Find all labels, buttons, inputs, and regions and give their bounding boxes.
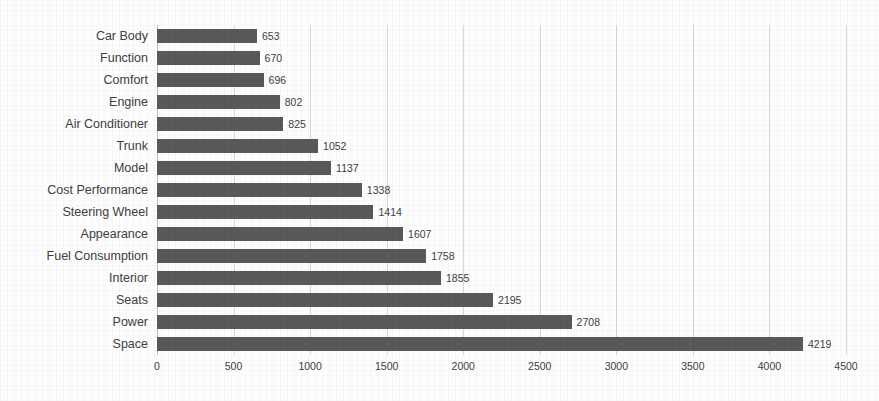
bar-row: 696: [157, 69, 846, 92]
tick-label-0: 0: [154, 358, 160, 374]
bar-row: 653: [157, 25, 846, 48]
tick-label-2500: 2500: [528, 358, 551, 374]
category-label: Appearance: [0, 223, 148, 246]
bar-value-label: 1052: [323, 137, 346, 155]
bar-row: 2195: [157, 289, 846, 312]
bar-value-label: 1338: [367, 181, 390, 199]
tick-label-1500: 1500: [375, 358, 398, 374]
category-label: Model: [0, 157, 148, 180]
bar-row: 1607: [157, 223, 846, 246]
bar[interactable]: [157, 205, 373, 219]
bar-chart: Car BodyFunctionComfortEngineAir Conditi…: [0, 0, 879, 401]
category-label: Power: [0, 311, 148, 334]
bar-row: 4219: [157, 333, 846, 356]
category-label: Air Conditioner: [0, 113, 148, 136]
bar[interactable]: [157, 271, 441, 285]
tick-label-500: 500: [225, 358, 243, 374]
bar[interactable]: [157, 73, 264, 87]
bar[interactable]: [157, 293, 493, 307]
category-label: Cost Performance: [0, 179, 148, 202]
category-label: Interior: [0, 267, 148, 290]
category-label: Fuel Consumption: [0, 245, 148, 268]
bar-row: 1758: [157, 245, 846, 268]
bar-value-label: 1758: [431, 247, 454, 265]
bar[interactable]: [157, 117, 283, 131]
bar-value-label: 1607: [408, 225, 431, 243]
bar-row: 1414: [157, 201, 846, 224]
bar-value-label: 802: [285, 93, 303, 111]
bar-value-label: 653: [262, 27, 280, 45]
bar[interactable]: [157, 95, 280, 109]
bar-value-label: 2708: [577, 313, 600, 331]
bar-row: 802: [157, 91, 846, 114]
category-label: Car Body: [0, 25, 148, 48]
category-axis-labels: Car BodyFunctionComfortEngineAir Conditi…: [0, 25, 148, 355]
category-label: Engine: [0, 91, 148, 114]
bar-value-label: 2195: [498, 291, 521, 309]
bar-value-label: 696: [269, 71, 287, 89]
bar-series: 6536706968028251052113713381414160717581…: [157, 25, 846, 355]
bar-value-label: 1137: [336, 159, 359, 177]
gridline-4500: [846, 25, 847, 355]
bar[interactable]: [157, 227, 403, 241]
bar-value-label: 1414: [378, 203, 401, 221]
tick-label-3500: 3500: [681, 358, 704, 374]
value-axis-tick-labels: 050010001500200025003000350040004500: [157, 358, 846, 378]
bar-value-label: 4219: [808, 335, 831, 353]
bar[interactable]: [157, 161, 331, 175]
category-label: Function: [0, 47, 148, 70]
tick-label-4000: 4000: [758, 358, 781, 374]
category-label: Steering Wheel: [0, 201, 148, 224]
bar-row: 1052: [157, 135, 846, 158]
bar[interactable]: [157, 183, 362, 197]
tick-label-2000: 2000: [452, 358, 475, 374]
category-label: Comfort: [0, 69, 148, 92]
bar-value-label: 1855: [446, 269, 469, 287]
category-label: Seats: [0, 289, 148, 312]
plot-area: 6536706968028251052113713381414160717581…: [157, 25, 846, 355]
bar-value-label: 670: [265, 49, 283, 67]
bar-row: 2708: [157, 311, 846, 334]
bar[interactable]: [157, 315, 572, 329]
bar-row: 1137: [157, 157, 846, 180]
bar[interactable]: [157, 29, 257, 43]
category-label: Space: [0, 333, 148, 356]
bar[interactable]: [157, 51, 260, 65]
bar[interactable]: [157, 249, 426, 263]
bar-row: 1855: [157, 267, 846, 290]
bar-row: 670: [157, 47, 846, 70]
bar-row: 1338: [157, 179, 846, 202]
tick-label-1000: 1000: [298, 358, 321, 374]
bar[interactable]: [157, 337, 803, 351]
tick-label-3000: 3000: [605, 358, 628, 374]
bar[interactable]: [157, 139, 318, 153]
bar-row: 825: [157, 113, 846, 136]
bar-value-label: 825: [288, 115, 306, 133]
category-label: Trunk: [0, 135, 148, 158]
tick-label-4500: 4500: [834, 358, 857, 374]
